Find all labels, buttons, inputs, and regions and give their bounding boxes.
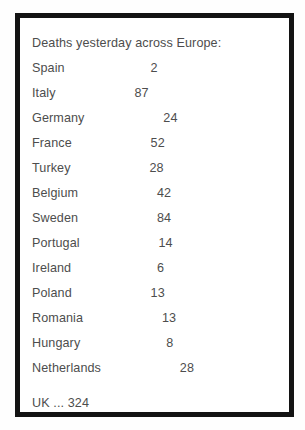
country-name: Poland	[32, 281, 72, 306]
list-item: Italy 87	[32, 81, 279, 106]
list-item: Germany 24	[32, 106, 279, 131]
country-count: 6	[71, 256, 164, 281]
list-item: Spain 2	[32, 56, 279, 81]
country-name: Turkey	[32, 156, 71, 181]
country-name: Netherlands	[32, 356, 101, 381]
country-name: Hungary	[32, 331, 80, 356]
country-name: Italy	[32, 81, 56, 106]
country-name: France	[32, 131, 72, 156]
country-count: 52	[72, 131, 165, 156]
list-item: Belgium 42	[32, 181, 279, 206]
country-count: 28	[101, 356, 194, 381]
list-item: Netherlands 28	[32, 356, 279, 381]
country-name: Romania	[32, 306, 83, 331]
card-headline: Deaths yesterday across Europe:	[32, 31, 279, 56]
country-death-list: Spain 2 Italy 87 Germany 24 France 52 Tu…	[32, 56, 279, 381]
list-item: Ireland 6	[32, 256, 279, 281]
country-count: 84	[78, 206, 171, 231]
text-card: Deaths yesterday across Europe: Spain 2 …	[15, 13, 294, 417]
list-item: Romania 13	[32, 306, 279, 331]
list-item: Sweden 84	[32, 206, 279, 231]
country-count: 13	[72, 281, 165, 306]
country-count: 87	[56, 81, 149, 106]
country-count: 8	[80, 331, 173, 356]
closing-line-1: There's no way we are ready to ease	[32, 416, 279, 417]
country-name: Ireland	[32, 256, 71, 281]
list-item: Portugal 14	[32, 231, 279, 256]
country-name: Sweden	[32, 206, 78, 231]
list-item: Turkey 28	[32, 156, 279, 181]
country-name: Spain	[32, 56, 65, 81]
country-count: 14	[80, 231, 173, 256]
list-item: Hungary 8	[32, 331, 279, 356]
country-count: 2	[65, 56, 158, 81]
country-count: 13	[83, 306, 176, 331]
list-item: France 52	[32, 131, 279, 156]
country-count: 28	[71, 156, 164, 181]
country-name: Germany	[32, 106, 85, 131]
card-content: Deaths yesterday across Europe: Spain 2 …	[20, 18, 289, 412]
country-count: 42	[78, 181, 171, 206]
country-name: Belgium	[32, 181, 78, 206]
list-item: Poland 13	[32, 281, 279, 306]
uk-total-line: UK ... 324	[32, 391, 279, 416]
country-name: Portugal	[32, 231, 80, 256]
screenshot-root: Deaths yesterday across Europe: Spain 2 …	[0, 0, 305, 430]
country-count: 24	[85, 106, 178, 131]
